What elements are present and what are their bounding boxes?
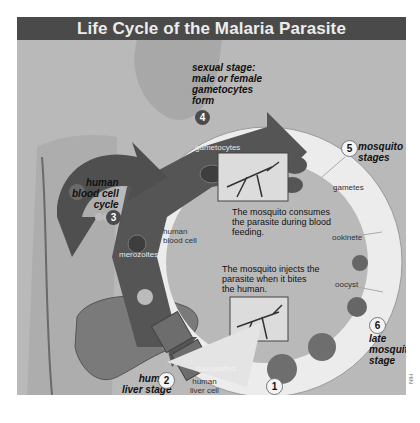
- diagram-title: Life Cycle of the Malaria Parasite: [77, 19, 346, 39]
- sexual-stage-label: sexual stage: male or female gametocytes…: [192, 62, 262, 106]
- blood-cell-cycle-label: human blood cell cycle: [72, 177, 119, 210]
- credit-label: NIH: [408, 374, 414, 384]
- human-blood-cell-label: human blood cell: [163, 227, 197, 245]
- stage-number-5: 5: [341, 140, 358, 157]
- oocyst-label: oocyst: [335, 280, 358, 289]
- mosquito-stages-label: mosquito stages: [358, 141, 403, 163]
- sporozoites-label: sporozoites: [195, 364, 236, 373]
- stage-number-3: 3: [106, 210, 121, 225]
- late-mosquito-stage-label: late mosquito stage: [369, 333, 406, 366]
- gametes-label: gametes: [333, 183, 364, 192]
- stage-number-6: 6: [369, 317, 386, 334]
- gametocytes-label: gametocytes: [195, 143, 240, 153]
- ookinete-label: ookinete: [332, 233, 362, 242]
- injects-caption: The mosquito injects the parasite when i…: [222, 264, 320, 294]
- merozoites-label: merozoites: [119, 250, 158, 260]
- stage-number-1: 1: [266, 378, 283, 395]
- stage-number-4: 4: [195, 110, 210, 125]
- diagram-frame: Life Cycle of the Malaria Parasite sexua…: [17, 17, 406, 395]
- consumes-caption: The mosquito consumes the parasite durin…: [232, 207, 331, 237]
- stage-number-2: 2: [158, 372, 175, 389]
- title-bar: Life Cycle of the Malaria Parasite: [17, 17, 406, 40]
- human-liver-cell-label: human liver cell: [190, 377, 219, 395]
